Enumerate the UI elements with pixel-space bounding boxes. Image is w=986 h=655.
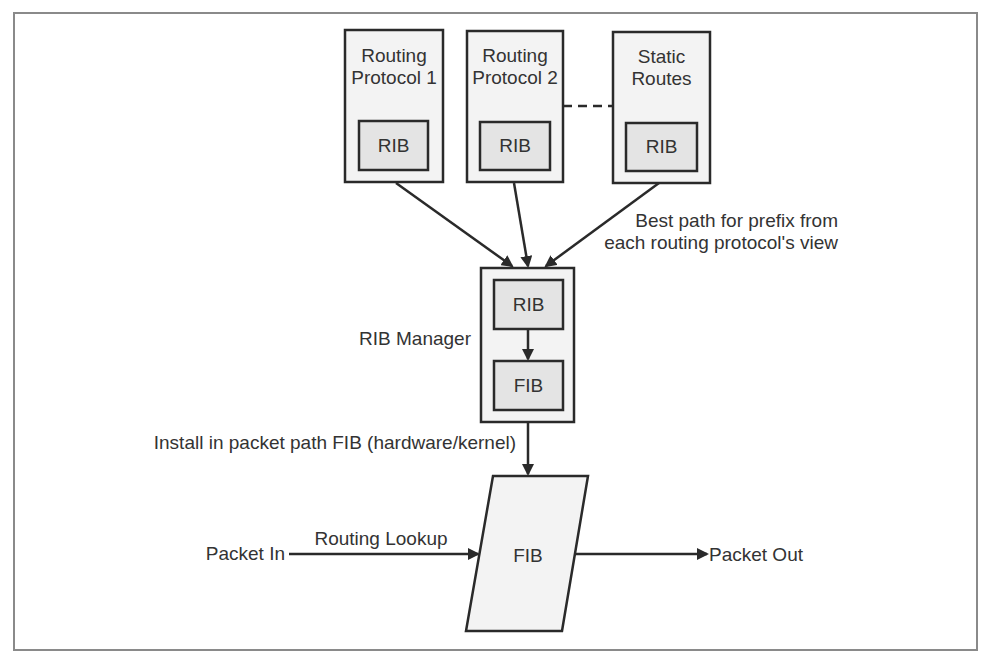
source-title-line1: Routing xyxy=(482,45,548,66)
manager-fib-label: FIB xyxy=(514,375,544,396)
routing-lookup-label: Routing Lookup xyxy=(314,528,447,549)
source-box-static-routes: Static Routes RIB xyxy=(613,32,710,183)
packet-out-label: Packet Out xyxy=(709,544,804,565)
packet-fib-label: FIB xyxy=(513,545,543,566)
rib-label: RIB xyxy=(499,135,531,156)
source-box-routing-protocol-1: Routing Protocol 1 RIB xyxy=(345,30,443,182)
manager-rib-label: RIB xyxy=(513,294,545,315)
source-box-routing-protocol-2: Routing Protocol 2 RIB xyxy=(467,31,563,182)
source-title-line2: Routes xyxy=(631,68,691,89)
best-path-note-line2: each routing protocol's view xyxy=(604,232,838,253)
routing-diagram: Routing Protocol 1 RIB Routing Protocol … xyxy=(0,0,986,655)
best-path-note-line1: Best path for prefix from xyxy=(635,210,838,231)
source-title-line2: Protocol 2 xyxy=(472,67,558,88)
arrow-rp1-to-manager xyxy=(396,183,512,266)
source-title-line1: Static xyxy=(638,46,686,67)
packet-in-label: Packet In xyxy=(206,543,285,564)
install-note: Install in packet path FIB (hardware/ker… xyxy=(154,432,516,453)
arrow-rp2-to-manager xyxy=(514,183,528,266)
source-title-line2: Protocol 1 xyxy=(351,67,437,88)
rib-manager-box: RIB FIB xyxy=(481,268,574,422)
rib-manager-label: RIB Manager xyxy=(359,328,472,349)
source-title-line1: Routing xyxy=(361,45,427,66)
rib-label: RIB xyxy=(378,135,410,156)
packet-path-fib: FIB xyxy=(466,476,588,631)
rib-label: RIB xyxy=(646,136,678,157)
